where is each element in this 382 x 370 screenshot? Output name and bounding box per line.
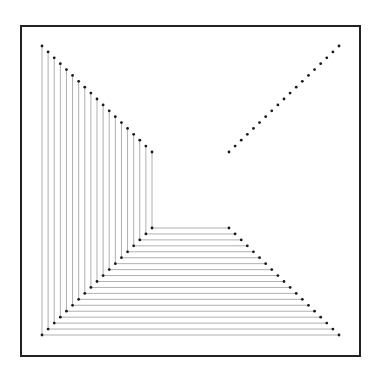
dot [138,139,141,142]
dot [264,115,267,118]
dot [132,244,135,247]
dot [71,304,74,307]
dot [120,256,123,259]
dot [132,133,135,136]
dot [108,109,111,112]
dot [295,292,298,295]
dot [89,92,92,95]
dot [144,145,147,148]
dot [338,334,341,337]
dot [47,50,50,53]
dot [83,86,86,89]
dot [96,280,99,283]
dot [325,322,328,325]
dot [41,334,44,337]
dot [295,86,298,89]
dot [331,50,334,53]
dot [96,98,99,101]
dot [126,250,129,253]
dot [252,250,255,253]
dot [53,56,56,59]
dot [102,103,105,106]
dot [246,133,249,136]
dot [144,233,147,236]
dot [325,56,328,59]
dot [59,316,62,319]
dot [138,238,141,241]
dot [240,139,243,142]
dot [240,238,243,241]
dot [102,274,105,277]
dot [77,80,80,83]
dot [151,227,154,230]
dot [270,268,273,271]
dot [59,62,62,65]
corridor-diagram [0,0,382,370]
dot [126,127,129,130]
dot [276,274,279,277]
dot [313,68,316,71]
dot [283,280,286,283]
dot [289,286,292,289]
perspective-dots [41,45,341,337]
dot [77,298,80,301]
dot [331,328,334,331]
dot [283,98,286,101]
dot [289,92,292,95]
dot [276,103,279,106]
dot [120,121,123,124]
dot [307,304,310,307]
dot [114,115,117,118]
dot [313,310,316,313]
dot [264,262,267,265]
dot [234,233,237,236]
dot [47,328,50,331]
dot [228,227,231,230]
dot [41,45,44,48]
dot [89,286,92,289]
dot [246,244,249,247]
perspective-lines [42,46,339,335]
dot [301,298,304,301]
dot [319,62,322,65]
dot [252,127,255,130]
dot [301,80,304,83]
dot [151,151,154,154]
dot [53,322,56,325]
dot [258,121,261,124]
dot [228,151,231,154]
dot [234,145,237,148]
dot [65,68,68,71]
dot [65,310,68,313]
dot [307,74,310,77]
dot [108,268,111,271]
dot [258,256,261,259]
dot [83,292,86,295]
dot [71,74,74,77]
dot [114,262,117,265]
dot [319,316,322,319]
dot [270,109,273,112]
dot [338,45,341,48]
